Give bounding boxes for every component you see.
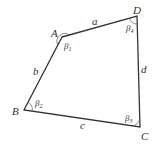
side-label-d: d (141, 63, 147, 75)
side-label-b: b (33, 65, 39, 77)
quadrilateral-diagram: A D C B a b c d β1 β2 β3 β4 (0, 0, 155, 147)
angle-label-beta3: β3 (124, 113, 132, 124)
angle-arc-C (132, 119, 140, 126)
angle-label-beta1: β1 (63, 41, 71, 52)
angle-label-beta2: β2 (34, 98, 42, 109)
angle-arc-B (29, 103, 33, 112)
quadrilateral-ADCB (24, 16, 140, 127)
side-label-a: a (92, 15, 98, 27)
side-label-c: c (80, 119, 85, 131)
vertex-label-D: D (132, 4, 141, 16)
angle-label-beta4: β4 (125, 23, 133, 34)
vertex-label-A: A (50, 27, 58, 39)
vertex-label-B: B (12, 105, 19, 117)
angle-arc-D (130, 18, 138, 24)
vertex-label-C: C (141, 130, 149, 142)
